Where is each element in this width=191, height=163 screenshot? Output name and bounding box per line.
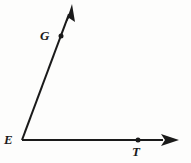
point-t-dot — [136, 138, 141, 143]
ray-eg-arrowhead — [65, 4, 75, 25]
point-label-g: G — [40, 29, 49, 42]
angle-figure-svg — [0, 0, 191, 163]
vertex-label-e: E — [4, 133, 13, 146]
angle-diagram: E G T — [0, 0, 191, 163]
point-label-t: T — [132, 145, 140, 158]
ray-et-arrowhead — [161, 134, 179, 146]
point-g-dot — [59, 34, 64, 39]
